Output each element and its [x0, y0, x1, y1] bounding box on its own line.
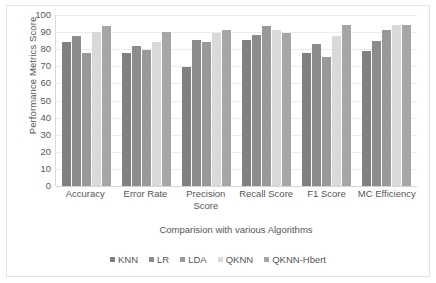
legend-item-label: KNN	[118, 254, 138, 265]
x-axis-tick-label: Accuracy	[55, 188, 115, 216]
bar	[272, 30, 281, 186]
bar-groups	[56, 15, 417, 186]
bar	[182, 67, 191, 186]
x-axis-tick-label-line: Error Rate	[115, 188, 175, 200]
bar	[392, 25, 401, 186]
bar	[342, 25, 351, 186]
gridline	[56, 186, 417, 187]
bar-group	[237, 15, 297, 186]
bar	[362, 51, 371, 186]
legend-item-qknn-hbert[interactable]: QKNN-Hbert	[264, 254, 326, 265]
bar	[202, 42, 211, 186]
bar-group	[116, 15, 176, 186]
bar	[72, 36, 81, 186]
bar	[312, 44, 321, 186]
bar	[252, 35, 261, 186]
y-axis-tick-label: 100	[35, 10, 51, 20]
bar-group	[357, 15, 417, 186]
x-axis-tick-label-line: Score	[176, 200, 236, 212]
legend-swatch-icon	[218, 257, 223, 262]
chart-container: Performance Metrics Score 10090807060504…	[6, 5, 430, 277]
bar	[102, 26, 111, 186]
bar-group	[297, 15, 357, 186]
bar	[152, 42, 161, 186]
legend-item-label: QKNN	[226, 254, 253, 265]
bar-group	[176, 15, 236, 186]
x-axis-tick-label: Recall Score	[236, 188, 296, 216]
legend-item-lr[interactable]: LR	[149, 254, 169, 265]
legend-item-lda[interactable]: LDA	[180, 254, 206, 265]
bar-group	[56, 15, 116, 186]
bar	[332, 36, 341, 186]
bar	[142, 50, 151, 186]
bar	[262, 26, 271, 186]
plot-area: 1009080706050403020100	[55, 15, 417, 186]
x-axis-tick-label-line: F1 Score	[296, 188, 356, 200]
x-axis-title: Comparision with various Algorithms	[55, 224, 417, 235]
x-axis-tick-label: Error Rate	[115, 188, 175, 216]
x-axis-tick-label-line: Recall Score	[236, 188, 296, 200]
bar	[222, 30, 231, 186]
y-axis-tick-label: 70	[40, 62, 51, 72]
bar	[242, 40, 251, 186]
y-axis-tick-label: 50	[40, 96, 51, 106]
legend-item-knn[interactable]: KNN	[110, 254, 138, 265]
legend-item-label: LDA	[188, 254, 206, 265]
bar	[122, 53, 131, 186]
chart-legend: KNNLRLDAQKNNQKNN-Hbert	[7, 254, 429, 265]
bar	[192, 40, 201, 186]
bar	[82, 53, 91, 186]
legend-item-qknn[interactable]: QKNN	[218, 254, 253, 265]
y-axis-title: Performance Metrics Score	[27, 0, 38, 161]
legend-swatch-icon	[110, 257, 115, 262]
x-axis-tick-label: F1 Score	[296, 188, 356, 216]
bar	[302, 53, 311, 186]
bar	[382, 30, 391, 186]
legend-swatch-icon	[149, 257, 154, 262]
bar	[162, 32, 171, 186]
legend-swatch-icon	[180, 257, 185, 262]
bar	[92, 32, 101, 186]
bar	[282, 33, 291, 186]
y-axis-tick-label: 0	[46, 181, 51, 191]
bar	[62, 42, 71, 186]
legend-item-label: LR	[157, 254, 169, 265]
x-axis-tick-labels: AccuracyError RatePrecisionScoreRecall S…	[55, 188, 417, 216]
y-axis-tick-label: 60	[40, 79, 51, 89]
x-axis-tick-label: MC Efficiency	[357, 188, 417, 216]
x-axis-tick-label-line: Precision	[176, 188, 236, 200]
y-axis-tick-label: 90	[40, 27, 51, 37]
bar	[212, 33, 221, 186]
y-axis-tick-label: 40	[40, 113, 51, 123]
legend-item-label: QKNN-Hbert	[272, 254, 326, 265]
y-axis-tick-label: 80	[40, 44, 51, 54]
legend-swatch-icon	[264, 257, 269, 262]
x-axis-tick-label-line: Accuracy	[55, 188, 115, 200]
bar	[322, 57, 331, 186]
bar	[402, 25, 411, 186]
y-axis-tick-label: 30	[40, 130, 51, 140]
y-axis-tick-label: 10	[40, 164, 51, 174]
x-axis-tick-label: PrecisionScore	[176, 188, 236, 216]
x-axis-tick-label-line: MC Efficiency	[357, 188, 417, 200]
bar	[132, 46, 141, 186]
bar	[372, 41, 381, 186]
y-axis-tick-label: 20	[40, 147, 51, 157]
